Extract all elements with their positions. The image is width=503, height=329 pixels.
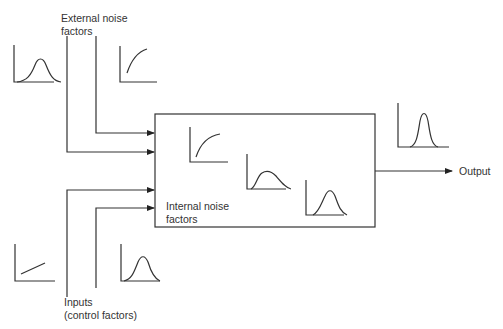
output-narrow-bell-plot bbox=[398, 103, 449, 147]
internal-saturation-plot bbox=[190, 127, 228, 162]
external-noise-bell-plot bbox=[14, 45, 61, 82]
inputs-label-line1: Inputs bbox=[64, 296, 137, 309]
input-bell-plot bbox=[121, 244, 160, 281]
inputs-label-line2: (control factors) bbox=[64, 309, 137, 322]
external-noise-label-line2: factors bbox=[61, 25, 128, 38]
input-arrow-2 bbox=[96, 208, 154, 288]
internal-noise-label-line1: Internal noise bbox=[166, 200, 229, 213]
external-noise-arrow-1 bbox=[96, 36, 154, 133]
diagram-canvas bbox=[0, 0, 503, 329]
internal-skewed-plot bbox=[247, 154, 291, 189]
external-noise-label-line1: External noise bbox=[61, 12, 128, 25]
inputs-label: Inputs (control factors) bbox=[64, 296, 137, 322]
input-linear-plot bbox=[15, 244, 55, 281]
external-noise-saturation-plot bbox=[120, 46, 157, 82]
internal-bell-plot bbox=[306, 180, 347, 215]
internal-noise-label: Internal noise factors bbox=[166, 200, 229, 226]
output-label: Output bbox=[459, 165, 491, 178]
external-noise-label: External noise factors bbox=[61, 12, 128, 38]
internal-noise-label-line2: factors bbox=[166, 213, 229, 226]
external-noise-arrow-2 bbox=[67, 36, 154, 152]
